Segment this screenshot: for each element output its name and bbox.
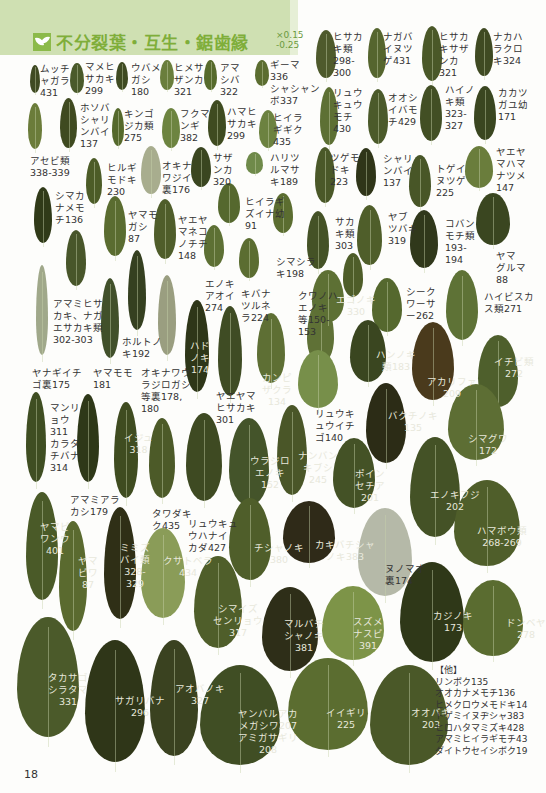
species-label: フクマ ンギ 382 [180,108,210,144]
species-label: ハマヒ サカキ 299 [227,106,257,142]
species-label: アマミヒサ カキ、ナガ エサカキ類 302-303 [53,298,103,346]
other-item: リンボク135 [435,677,527,689]
other-item: アマミヒイラギモチ43 [435,734,527,746]
species-label-on-leaf: ヤマ ビワ 87 [78,555,98,591]
species-label: ツゲモ ドキ 223 [330,152,360,188]
species-label-on-leaf: バクチノキ 135 [388,410,438,434]
leaf-specimen [446,270,478,340]
leaf-specimen [34,187,52,243]
species-label: キンゴ ジカ類 275 [124,108,154,144]
species-label: マンリ ョウ 311 カラタ チバナ 314 [50,402,80,474]
species-label-on-leaf: シマグワ 172 [468,433,508,457]
leaf-specimen [218,306,242,396]
leaf-specimen [246,152,263,174]
species-label-on-leaf: エノキフジ 202 [430,489,480,513]
species-label: ハイノ キ類 323- 327 [445,84,475,132]
leaf-specimen [116,62,128,90]
leaf-specimen [288,658,368,750]
leaf-specimen [239,238,259,278]
species-label-on-leaf: イイギリ 225 [326,707,366,731]
leaf-specimen [357,205,382,265]
species-label: クワノハ エノキ 等150- 153 [298,290,338,338]
leaf-specimen [218,183,240,223]
species-label: アマミアラ カシ179 [70,494,120,518]
species-label-on-leaf: シマイズ センリョウ 317 [213,603,263,639]
leaf-specimen [86,158,102,204]
species-label: ヤエヤ マネコ ノチチ 148 [178,214,208,262]
scale-bottom: -0.25 [276,40,304,50]
species-label: カカツ ガユ幼 171 [498,87,528,123]
leaf-sprout-icon [33,33,51,51]
species-label-on-leaf: カンピ ザクラ 134 [262,372,292,408]
species-label-on-leaf: ハマボウ類 268-269 [477,525,527,549]
species-label: ハリツ ルマサ キ189 [270,152,300,188]
other-item: オオカナメモチ136 [435,688,527,700]
leaf-specimen [128,250,146,330]
species-label-on-leaf: ヌノマオ 裏174 [385,563,425,587]
page-title: 不分裂葉・互生・鋸歯縁 [56,29,249,54]
species-label: ウバメ ガシ 180 [131,62,161,98]
species-label-on-leaf: ポイン セチア 201 [355,468,385,504]
species-label: サザ ンカ 320 [213,152,233,188]
species-label-on-leaf: ミミズ バイ類 328- 329 [120,542,150,590]
leaf-specimen [465,146,493,188]
leaf-specimen [104,196,126,256]
species-label: タワダキ ク435 [152,508,192,532]
species-label-on-leaf: タカサゴ シラタマ 331 [48,672,88,708]
species-label: エノキ アオイ 274 [205,278,235,314]
species-label: ホソバ シャリ ンバイ 137 [80,102,110,150]
species-label-on-leaf: スズメ ナスビ 391 [353,616,383,652]
species-label: ギーマ 336 シャシャン ボ337 [270,59,320,107]
species-label-on-leaf: マルバチ シャノキ 381 [284,618,324,654]
species-label: サカ キ類 303 [335,216,355,252]
species-label: ナガバ イヌツ ゲ431 [383,31,413,67]
species-label-on-leaf: ヤマビ ワンウ 401 [40,521,70,557]
leaf-specimen [60,98,77,148]
species-label-on-leaf: イチビ類 272 [494,356,534,380]
species-label-on-leaf: ヤンバルアカ メガシワ207 アミガサギリ 208 [238,708,298,756]
species-label: コバン モチ類 193- 194 [445,218,475,266]
species-label: オオシ イバモ チ429 [388,92,418,128]
leaf-specimen [204,60,217,90]
leaf-specimen [101,278,119,358]
leaf-specimen [160,60,174,90]
leaf-specimen [475,28,493,76]
species-label: オキナワウ ラジロガシ 等裏178, 180 [141,367,191,415]
other-heading: 【他】 [435,665,527,677]
species-label: ヤナギイチ ゴ裏175 [32,367,82,391]
species-label: アセビ類 338-339 [30,155,70,179]
leaf-specimen [162,108,180,148]
leaf-specimen [410,437,460,537]
other-item: ヒロハタマミズキ428 [435,723,527,735]
species-label: マメヒ サカキ 299 [85,61,115,97]
species-label-on-leaf: サガリバナ 296 [115,695,165,719]
leaf-specimen [77,394,99,482]
species-label-on-leaf: チシャノキ 380 [254,542,304,566]
species-label: キバナ ツルネ ラ224 [241,288,271,324]
leaf-specimen [343,253,363,297]
leaf-specimen [36,265,48,355]
leaf-specimen [191,147,211,187]
species-label-on-leaf: エゴノキ 330 [336,294,376,318]
scale-note: ×0.15 -0.25 [276,30,304,50]
species-label: リュウキュ ウハナイ カダ427 [188,518,238,554]
leaf-specimen [368,89,388,144]
species-label-on-leaf: ドンベヤ 278 [506,617,546,641]
leaf-specimen [208,100,226,146]
species-label: トゲイ ヌツゲ 225 [436,163,466,199]
leaf-specimen [186,413,222,501]
leaf-specimen [149,418,175,498]
species-label: ヤエヤ マハマ ナツメ 147 [496,146,526,194]
other-item: ダイトウセイシボク19 [435,746,527,758]
species-label: リュウ キュウ モチ 430 [333,87,363,135]
species-label: アマ シバ 322 [220,62,240,98]
leaf-specimen [28,103,42,149]
species-label-on-leaf: カキバチシャ ノキ383 [315,539,375,563]
leaf-specimen [30,65,40,93]
species-label: オキナ ワジイ 裏176 [162,160,192,196]
leaf-specimen [66,230,86,286]
page-number: 18 [24,768,38,781]
leaf-specimen [70,63,84,93]
species-label: ヒイラ ギギク 435 [273,112,303,148]
species-label-on-leaf: クサトベラ 434 [163,555,213,579]
